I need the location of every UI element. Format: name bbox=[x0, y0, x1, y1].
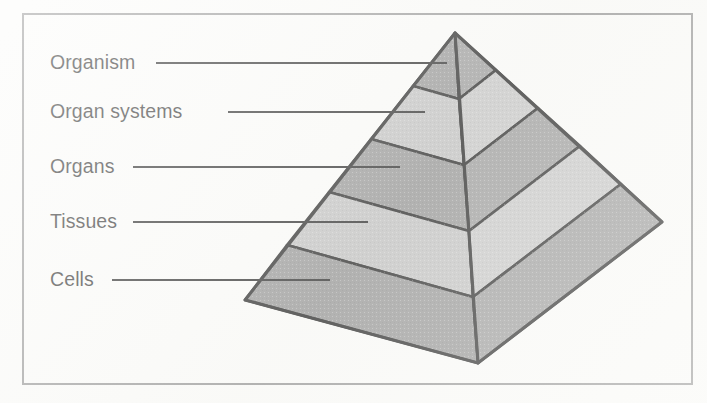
pyramid-label-organs: Organs bbox=[50, 157, 115, 177]
pyramid-label-layer: Organism Organ systems Organs Tissues Ce… bbox=[0, 0, 707, 403]
pyramid-label-organism: Organism bbox=[50, 53, 135, 73]
pyramid-label-organ-systems: Organ systems bbox=[50, 102, 182, 122]
figure-root: Organism Organ systems Organs Tissues Ce… bbox=[0, 0, 707, 403]
pyramid-label-tissues: Tissues bbox=[50, 212, 117, 232]
pyramid-label-cells: Cells bbox=[50, 270, 94, 290]
